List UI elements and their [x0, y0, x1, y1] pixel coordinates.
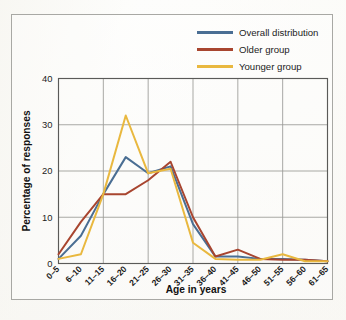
- chart-gridlines: [59, 79, 328, 264]
- x-tick-label: 6–10: [63, 264, 84, 285]
- y-tick-label: 40: [42, 73, 52, 84]
- legend-label-younger-group: Younger group: [239, 61, 302, 72]
- x-tick-label: 51–55: [262, 264, 286, 288]
- x-tick-label: 16–20: [105, 264, 129, 288]
- y-axis-tick-labels: 010203040: [42, 73, 52, 269]
- x-tick-label: 11–15: [83, 264, 107, 288]
- legend-item-overall-distribution: Overall distribution: [197, 27, 318, 38]
- line-chart: Overall distribution Older group Younger…: [0, 0, 346, 320]
- chart-legend: Overall distribution Older group Younger…: [197, 27, 318, 72]
- legend-label-older-group: Older group: [239, 44, 290, 55]
- x-tick-label: 56–60: [284, 264, 308, 288]
- y-axis-title: Percentage of responses: [21, 110, 32, 231]
- y-tick-label: 10: [42, 212, 52, 223]
- legend-label-overall-distribution: Overall distribution: [239, 27, 318, 38]
- x-axis-title: Age in years: [166, 284, 227, 295]
- x-tick-label: 46–50: [239, 264, 263, 288]
- x-tick-label: 21–25: [127, 264, 151, 288]
- legend-item-older-group: Older group: [197, 44, 290, 55]
- y-tick-label: 30: [42, 119, 52, 130]
- y-tick-label: 20: [42, 165, 52, 176]
- x-tick-label: 61–65: [306, 264, 330, 288]
- legend-item-younger-group: Younger group: [197, 61, 302, 72]
- chart-figure: Overall distribution Older group Younger…: [0, 0, 346, 320]
